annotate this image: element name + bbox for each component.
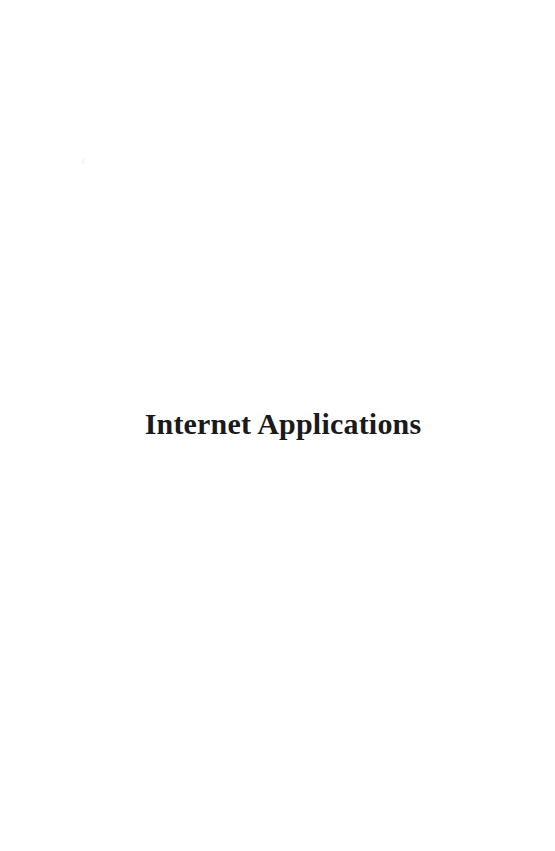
page-canvas: Internet Applications [0, 0, 555, 851]
part-title-block: Internet Applications [0, 406, 555, 442]
scanned-page: Internet Applications [0, 0, 555, 851]
scan-speck-artifact [82, 159, 85, 164]
page-title: Internet Applications [134, 406, 422, 442]
